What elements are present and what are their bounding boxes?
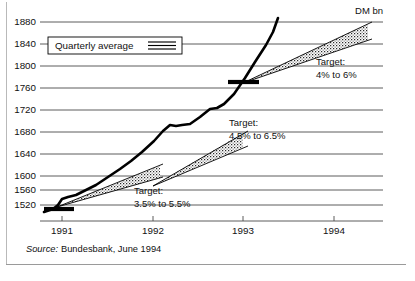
x-tick-label: 1991 <box>51 225 73 236</box>
y-tick-label: 1720 <box>14 104 36 115</box>
annotation-target-3: Target: 4% to 6% <box>316 56 357 80</box>
source-prefix: Source: <box>26 244 58 254</box>
x-tick-label: 1993 <box>232 225 254 236</box>
annotation-target-3-title: Target: <box>316 56 345 67</box>
y-tick-label: 1800 <box>14 60 36 71</box>
x-axis-tick-labels: 1991 1992 1993 1994 <box>51 225 345 236</box>
y-tick-label: 1600 <box>14 170 36 181</box>
y-tick-label: 1640 <box>14 148 36 159</box>
x-tick-label: 1994 <box>323 225 345 236</box>
annotation-target-1: Target: 3.5% to 5.5% <box>134 185 191 209</box>
y-tick-label: 1560 <box>14 184 36 195</box>
legend-label: Quarterly average <box>55 40 134 51</box>
money-stock-line-chart: 1880 1840 1800 1760 1720 1680 1640 1600 … <box>0 0 415 281</box>
legend[interactable]: Quarterly average <box>48 37 182 54</box>
annotation-target-1-title: Target: <box>134 185 163 196</box>
y-tick-label: 1760 <box>14 82 36 93</box>
target-corridor-2-lower-edge <box>153 146 248 186</box>
annotation-target-2: Target: 4.5% to 6.5% <box>229 117 286 141</box>
source-note: Source: Bundesbank, June 1994 <box>26 244 161 254</box>
y-axis-unit-label: DM bn <box>355 5 383 16</box>
annotation-target-1-range: 3.5% to 5.5% <box>134 198 191 209</box>
annotation-target-2-range: 4.5% to 6.5% <box>229 130 286 141</box>
annotation-target-3-range: 4% to 6% <box>316 69 357 80</box>
x-axis-ticks <box>62 216 334 221</box>
x-tick-label: 1992 <box>142 225 164 236</box>
y-tick-label: 1520 <box>14 199 36 210</box>
annotation-target-2-title: Target: <box>229 117 258 128</box>
source-text: Bundesbank, June 1994 <box>61 244 161 254</box>
y-axis-tick-labels: 1880 1840 1800 1760 1720 1680 1640 1600 … <box>14 16 36 210</box>
chart-figure: 1880 1840 1800 1760 1720 1680 1640 1600 … <box>0 0 415 281</box>
y-tick-label: 1680 <box>14 126 36 137</box>
y-tick-label: 1840 <box>14 38 36 49</box>
y-tick-label: 1880 <box>14 16 36 27</box>
